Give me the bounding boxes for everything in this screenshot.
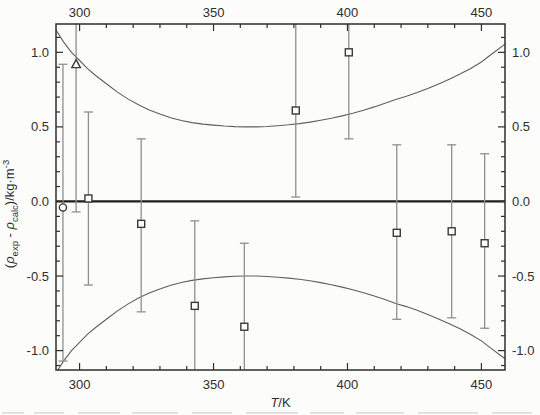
upper-confidence-curve — [56, 30, 505, 127]
y-axis-title: (ρexp - ρcalc)/kg·m-3 — [0, 160, 20, 268]
scan-artifact-mark — [34, 412, 64, 414]
lower-confidence-curve — [56, 276, 505, 373]
y-tick-label-right: 0.5 — [512, 119, 530, 134]
y-title-sub-exp: exp — [9, 241, 20, 256]
y-tick-label-left: 1.0 — [31, 45, 49, 60]
scan-artifact-mark — [78, 412, 120, 414]
x-tick-label-bottom: 450 — [471, 377, 493, 392]
y-title-sup: -3 — [0, 160, 11, 168]
x-tick-label-top: 450 — [471, 5, 493, 20]
y-tick-label-left: -0.5 — [27, 269, 49, 284]
y-tick-label-left: 0.0 — [31, 194, 49, 209]
scan-artifact-mark — [310, 412, 344, 414]
residuals-scatter-plot: 3003003503504004004504501.01.00.50.50.00… — [0, 0, 540, 415]
square-marker — [241, 323, 248, 330]
circle-marker — [59, 204, 66, 211]
x-tick-label-bottom: 400 — [337, 377, 359, 392]
y-tick-label-left: 0.5 — [31, 119, 49, 134]
x-tick-label-top: 400 — [337, 5, 359, 20]
residual-plot-figure: 3003003503504004004504501.01.00.50.50.00… — [0, 0, 540, 415]
scan-artifact-mark — [192, 412, 232, 414]
y-tick-label-right: -0.5 — [512, 269, 534, 284]
scan-artifact-mark — [492, 412, 532, 414]
scan-artifact-mark — [246, 412, 298, 414]
data-markers — [59, 49, 488, 330]
tick-labels: 3003003503504004004504501.01.00.50.50.00… — [27, 5, 535, 392]
square-marker — [85, 195, 92, 202]
scan-artifact-mark — [356, 412, 404, 414]
y-title-units: )/kg·m — [2, 168, 17, 205]
x-tick-label-top: 300 — [69, 5, 91, 20]
square-marker — [292, 107, 299, 114]
scan-artifact-mark — [418, 412, 478, 414]
y-tick-label-left: -1.0 — [27, 343, 49, 358]
scan-artifact-mark — [132, 412, 178, 414]
scan-artifact-mark — [2, 412, 24, 414]
square-marker — [481, 240, 488, 247]
triangle-marker — [72, 60, 81, 68]
y-title-sub-calc: calc — [9, 205, 20, 222]
x-tick-label-top: 350 — [203, 5, 225, 20]
square-marker — [393, 229, 400, 236]
y-title-minus: - — [2, 229, 17, 241]
x-axis-title-unit: /K — [278, 395, 291, 410]
y-tick-label-right: 1.0 — [512, 45, 530, 60]
y-tick-label-right: -1.0 — [512, 343, 534, 358]
error-bars — [58, 24, 489, 370]
square-marker — [138, 220, 145, 227]
y-tick-label-right: 0.0 — [512, 194, 530, 209]
x-tick-label-bottom: 350 — [203, 377, 225, 392]
x-axis-title: T/K — [270, 395, 291, 410]
square-marker — [448, 228, 455, 235]
square-marker — [345, 49, 352, 56]
x-tick-label-bottom: 300 — [69, 377, 91, 392]
scan-artifact — [2, 412, 532, 414]
square-marker — [191, 302, 198, 309]
